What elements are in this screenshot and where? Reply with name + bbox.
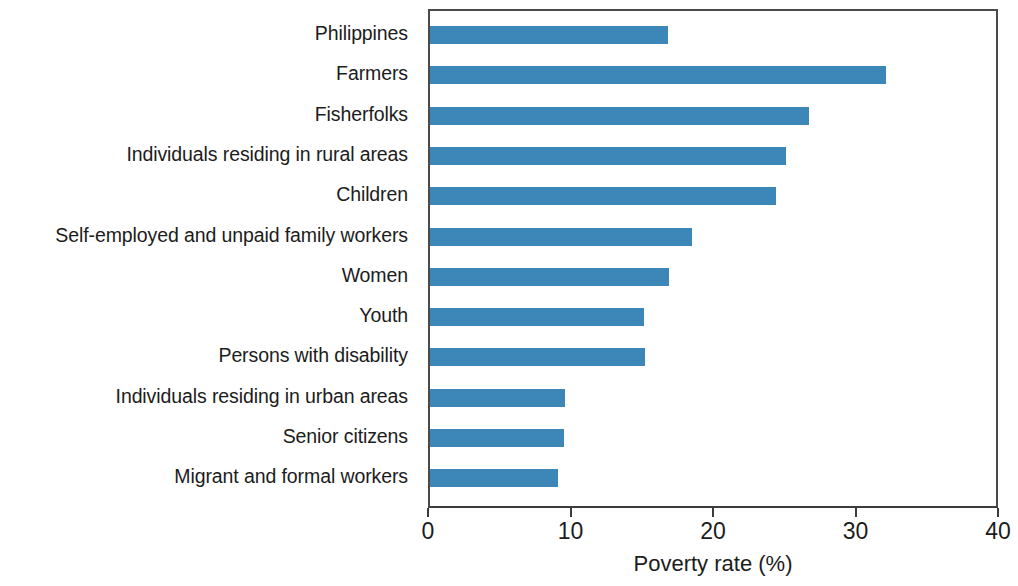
x-axis-title: Poverty rate (%): [0, 551, 1018, 577]
category-label: Children: [336, 184, 408, 204]
category-label: Persons with disability: [218, 345, 408, 365]
x-axis-title-text: Poverty rate (%): [634, 551, 793, 576]
bar: [430, 389, 565, 407]
x-axis-tick: [427, 508, 429, 517]
category-label: Individuals residing in rural areas: [126, 144, 408, 164]
category-label: Senior citizens: [283, 426, 408, 446]
bar: [430, 147, 786, 165]
bar: [430, 429, 564, 447]
bar-series: [430, 11, 996, 506]
x-axis-tick-label: 30: [843, 518, 869, 544]
category-label: Fisherfolks: [315, 104, 408, 124]
x-axis-tick-label: 40: [985, 518, 1011, 544]
bar: [430, 268, 669, 286]
x-axis-tick-label: 10: [558, 518, 584, 544]
category-label: Self-employed and unpaid family workers: [55, 225, 408, 245]
x-axis-tick-label: 0: [422, 518, 435, 544]
x-axis-tick-label: 20: [700, 518, 726, 544]
bar: [430, 187, 776, 205]
x-axis-tick: [997, 508, 999, 517]
bar: [430, 308, 644, 326]
x-axis-tick: [712, 508, 714, 517]
category-label: Women: [342, 265, 408, 285]
bar: [430, 469, 558, 487]
bar: [430, 66, 886, 84]
category-label: Individuals residing in urban areas: [116, 386, 408, 406]
x-axis-tick: [855, 508, 857, 517]
plot-area: [428, 9, 998, 508]
bar: [430, 348, 645, 366]
x-axis-tick: [570, 508, 572, 517]
bar: [430, 228, 692, 246]
category-label: Farmers: [336, 63, 408, 83]
category-axis-labels: PhilippinesFarmersFisherfolksIndividuals…: [0, 8, 418, 508]
bar: [430, 107, 809, 125]
category-label: Youth: [359, 305, 408, 325]
category-label: Philippines: [315, 23, 408, 43]
poverty-rate-bar-chart: PhilippinesFarmersFisherfolksIndividuals…: [0, 0, 1018, 586]
category-label: Migrant and formal workers: [174, 466, 408, 486]
bar: [430, 26, 668, 44]
